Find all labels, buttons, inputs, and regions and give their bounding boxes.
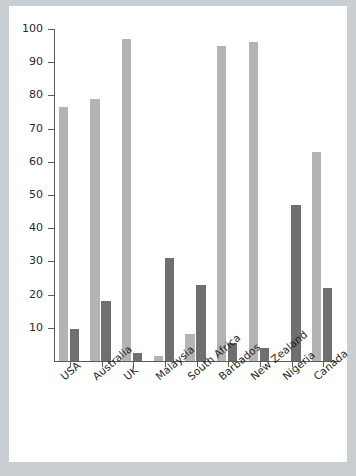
bar-malaysia-series-2	[165, 258, 175, 361]
bar-new-zealand-series-1	[249, 42, 259, 361]
y-axis-tick-label: 30	[9, 255, 43, 266]
chart-page: 102030405060708090100 USAAustraliaUKMala…	[0, 0, 356, 476]
y-axis-tick-label: 20	[9, 289, 43, 300]
x-axis-label-usa: USA	[58, 359, 83, 382]
y-axis-tick-label: 10	[9, 322, 43, 333]
bar-chart: 102030405060708090100 USAAustraliaUKMala…	[9, 6, 347, 462]
y-axis-tick-label: 90	[9, 56, 43, 67]
bars-layer	[54, 29, 339, 361]
bar-uk-series-1	[122, 39, 132, 361]
bar-uk-series-2	[133, 353, 143, 361]
bar-usa-series-2	[70, 329, 80, 361]
bar-usa-series-1	[59, 107, 69, 361]
y-axis-tick-label: 80	[9, 89, 43, 100]
x-axis-label-uk: UK	[121, 363, 140, 382]
bar-canada-series-2	[323, 288, 333, 361]
y-axis-tick-label: 40	[9, 222, 43, 233]
bar-south-africa-series-2	[196, 285, 206, 361]
y-axis-tick-label: 100	[9, 23, 43, 34]
y-axis-tick-label: 60	[9, 156, 43, 167]
y-axis-tick-label: 50	[9, 189, 43, 200]
bar-barbados-series-1	[217, 46, 227, 361]
bar-australia-series-1	[90, 99, 100, 361]
bar-australia-series-2	[101, 301, 111, 361]
bar-malaysia-series-1	[154, 356, 164, 361]
bar-canada-series-1	[312, 152, 322, 361]
y-axis-tick-label: 70	[9, 123, 43, 134]
chart-card: 102030405060708090100 USAAustraliaUKMala…	[9, 6, 347, 462]
